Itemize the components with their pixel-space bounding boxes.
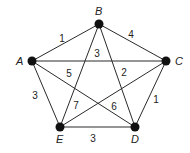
node-a: [28, 57, 37, 66]
edge-weight-c-d: 1: [153, 94, 159, 105]
edge-weight-a-b: 1: [59, 33, 65, 44]
edge-weight-a-c: 3: [94, 48, 100, 59]
edge-a-b: [32, 24, 99, 61]
graph-nodes: [28, 20, 171, 132]
node-label-d: D: [131, 133, 139, 145]
node-d: [131, 123, 140, 132]
graph-edges: [32, 24, 166, 127]
node-label-a: A: [15, 55, 23, 67]
edge-weight-a-e: 3: [32, 90, 38, 101]
node-b: [95, 20, 104, 29]
node-label-b: B: [95, 5, 102, 17]
edge-a-d: [32, 61, 135, 127]
edge-weight-b-d: 2: [121, 67, 127, 78]
node-label-e: E: [56, 133, 64, 145]
edge-weight-c-e: 7: [73, 100, 79, 111]
weighted-graph: 1436352713ABCDE: [0, 0, 190, 153]
edge-weight-b-c: 4: [128, 29, 134, 40]
edge-weight-b-e: 5: [66, 68, 72, 79]
node-e: [56, 123, 65, 132]
edge-weight-a-d: 6: [111, 101, 117, 112]
edge-weight-e-d: 3: [90, 133, 96, 144]
node-c: [162, 57, 171, 66]
node-label-c: C: [175, 55, 183, 67]
